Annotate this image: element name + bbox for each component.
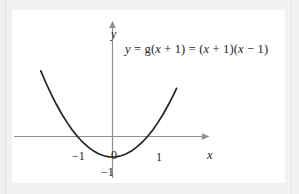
parabola-curve xyxy=(41,71,177,157)
equation-annotation: y = g(x + 1) = (x + 1)(x − 1) xyxy=(125,43,268,56)
origin-label: 0 xyxy=(111,149,117,161)
equation-plus-2: + xyxy=(212,42,219,56)
equation-equals-2: = xyxy=(189,42,196,56)
x-axis-label: x xyxy=(207,149,213,162)
equation-paren-close-3: ) xyxy=(264,42,268,56)
x-axis xyxy=(14,133,210,140)
x-axis-arrow-icon xyxy=(202,133,210,140)
x-tick-label-pos1: 1 xyxy=(156,151,162,163)
y-tick-label-neg1: −1 xyxy=(101,166,114,178)
graph-card: y = g(x + 1) = (x + 1)(x − 1) y x −1 0 1… xyxy=(12,10,285,183)
figure-root: y = g(x + 1) = (x + 1)(x − 1) y x −1 0 1… xyxy=(0,0,299,194)
page-gutter-right xyxy=(291,0,292,194)
cartesian-plot xyxy=(12,10,285,183)
y-axis-label: y xyxy=(111,28,116,40)
x-tick-label-neg1: −1 xyxy=(72,150,85,162)
page-gutter-left xyxy=(5,0,6,194)
